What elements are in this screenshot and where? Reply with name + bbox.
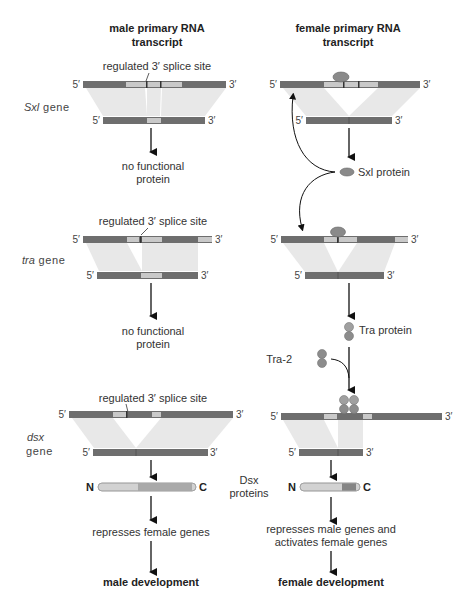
- splice-shade: [86, 243, 142, 271]
- exon: [324, 414, 337, 419]
- sxl-protein-label: Sxl protein: [358, 166, 410, 178]
- splice-shade: [72, 418, 136, 448]
- c-terminus-label: C: [363, 481, 371, 493]
- three-prime-label: 3′: [229, 79, 237, 90]
- splice-site-label: regulated 3′ splice site: [99, 392, 207, 404]
- exon-junction: [136, 449, 137, 456]
- five-prime-label: 5′: [296, 115, 304, 126]
- five-prime-label: 5′: [271, 411, 279, 422]
- dsx-proteins-label-line1: Dsx: [240, 474, 259, 486]
- splice-shade: [86, 88, 147, 116]
- five-prime-label: 5′: [59, 409, 67, 420]
- exon: [152, 412, 161, 417]
- no-functional-line2: protein: [136, 173, 170, 185]
- exon: [113, 412, 126, 417]
- exon: [142, 237, 162, 242]
- five-prime-label: 5′: [93, 115, 101, 126]
- sxl-protein-icon: [340, 168, 354, 176]
- no-functional-line1: no functional: [122, 160, 184, 172]
- mrna-bar: [93, 449, 208, 456]
- splice-shade: [338, 243, 395, 272]
- five-prime-label: 5′: [83, 447, 91, 458]
- exon: [324, 82, 378, 87]
- three-prime-label: 3′: [215, 234, 223, 245]
- female-effect-line2: activates female genes: [275, 536, 388, 548]
- splice-site-pointer: [126, 404, 128, 412]
- five-prime-label: 5′: [270, 79, 278, 90]
- female-header-line1: female primary RNA: [295, 22, 400, 34]
- tra-female-splicing: 5′ 3′ 5′ 3′ Tra protein Tra-2: [266, 227, 418, 390]
- exon-junction: [349, 117, 350, 124]
- five-prime-label: 5′: [87, 270, 95, 281]
- three-prime-label: 3′: [411, 234, 419, 245]
- tra-male-splicing: regulated 3′ splice site 5′ 3′ 5′ 3′ no …: [73, 215, 223, 350]
- mrna-bar: [305, 272, 384, 279]
- splice-shade: [142, 243, 198, 271]
- male-column-header: male primary RNA transcript: [109, 22, 204, 48]
- exon: [147, 118, 161, 123]
- tra2-protein-icon: [318, 350, 327, 368]
- splice-junction: [126, 411, 128, 418]
- three-prime-label: 3′: [423, 79, 431, 90]
- three-prime-label: 3′: [445, 411, 453, 422]
- tra2-label: Tra-2: [266, 353, 292, 365]
- exon: [395, 237, 408, 242]
- exon: [126, 82, 182, 87]
- male-header-line1: male primary RNA: [109, 22, 204, 34]
- exon: [363, 414, 372, 419]
- splice-shade: [283, 420, 338, 448]
- splice-shade: [147, 88, 161, 116]
- mrna-bar: [299, 449, 363, 456]
- n-terminus-label: N: [288, 481, 296, 493]
- tra2-join-arrow: [331, 359, 349, 378]
- exon: [127, 237, 139, 242]
- three-prime-label: 3′: [201, 270, 209, 281]
- dsx-proteins-label-line2: proteins: [229, 487, 269, 499]
- splice-junction: [146, 81, 148, 88]
- exon: [324, 237, 337, 242]
- male-outcome-label: male development: [103, 576, 199, 588]
- bound-tra-tra2-complex-icon: [340, 396, 359, 414]
- splice-shade: [161, 88, 226, 116]
- exon-junction: [338, 449, 339, 456]
- exon-junction: [338, 272, 339, 279]
- exon: [141, 273, 162, 278]
- five-prime-label: 5′: [73, 234, 81, 245]
- male-header-line2: transcript: [132, 36, 183, 48]
- splice-site-label: regulated 3′ splice site: [99, 215, 207, 227]
- splice-shade: [283, 243, 338, 272]
- exon: [198, 237, 212, 242]
- three-prime-label: 3′: [395, 115, 403, 126]
- dsx-male-splicing: regulated 3′ splice site 5′ 3′ 5′ 3′ N C…: [59, 392, 244, 588]
- splice-site-label: regulated 3′ splice site: [103, 60, 211, 72]
- three-prime-label: 3′: [208, 115, 216, 126]
- sex-determination-splicing-diagram: male primary RNA transcript female prima…: [0, 0, 472, 602]
- tra-protein-icon: [345, 323, 354, 341]
- pre-mrna-bar: [281, 413, 442, 420]
- female-outcome-label: female development: [278, 576, 384, 588]
- splice-shade: [338, 420, 363, 448]
- dsx-gene-label-line2: gene: [26, 445, 53, 457]
- three-prime-label: 3′: [210, 447, 218, 458]
- splice-site-pointer: [146, 73, 149, 81]
- male-effect-label: represses female genes: [92, 526, 210, 538]
- sxl-female-splicing: 5′ 3′ 5′ 3′ Sxl protein: [270, 72, 431, 228]
- five-prime-label: 5′: [295, 270, 303, 281]
- tra-gene-label: tra gene: [22, 254, 65, 266]
- three-prime-label: 3′: [366, 447, 374, 458]
- tra-protein-label: Tra protein: [359, 324, 412, 336]
- three-prime-label: 3′: [387, 270, 395, 281]
- dsx-female-splicing: 5′ 3′ 5′ 3′ N C represses male genes and…: [266, 396, 452, 589]
- bound-sxl-protein-icon: [331, 227, 346, 237]
- sxl-gene-label: Sxl gene: [24, 101, 70, 113]
- five-prime-label: 5′: [73, 79, 81, 90]
- n-terminus-label: N: [86, 481, 94, 493]
- sxl-male-splicing: regulated 3′ splice site 5′ 3′ 5′ 3′ no …: [73, 60, 237, 185]
- dsx-gene-label-line1: dsx: [27, 431, 45, 443]
- splice-site-pointer: [141, 228, 148, 235]
- splice-junction: [140, 236, 142, 243]
- female-effect-line1: represses male genes and: [266, 523, 396, 535]
- five-prime-label: 5′: [271, 234, 279, 245]
- female-column-header: female primary RNA transcript: [295, 22, 400, 48]
- no-functional-line2: protein: [136, 338, 170, 350]
